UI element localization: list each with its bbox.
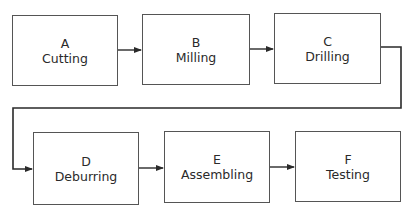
step-label: Drilling	[305, 49, 350, 64]
step-label: Cutting	[42, 51, 88, 66]
step-e-assembling: E Assembling	[164, 131, 270, 203]
step-d-deburring: D Deburring	[33, 132, 139, 205]
step-letter: B	[192, 35, 201, 50]
step-f-testing: F Testing	[295, 131, 401, 202]
process-flow-diagram: A Cutting B Milling C Drilling D Deburri…	[0, 0, 418, 218]
step-label: Deburring	[55, 169, 118, 184]
step-c-drilling: C Drilling	[274, 13, 381, 84]
step-a-cutting: A Cutting	[12, 15, 118, 86]
step-label: Assembling	[181, 167, 253, 182]
step-b-milling: B Milling	[142, 14, 250, 85]
step-letter: C	[323, 34, 332, 49]
step-label: Testing	[326, 167, 370, 182]
step-letter: F	[344, 152, 351, 167]
step-letter: E	[213, 152, 221, 167]
step-letter: D	[81, 154, 91, 169]
step-label: Milling	[176, 50, 217, 65]
step-letter: A	[61, 36, 70, 51]
